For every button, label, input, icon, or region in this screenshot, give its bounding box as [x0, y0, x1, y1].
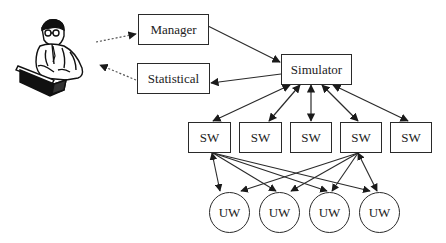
person-at-laptop-icon [16, 20, 83, 96]
simulator-node: Simulator [281, 54, 352, 85]
uw-node-3: UW [309, 192, 350, 233]
sw-node-4: SW [340, 122, 382, 153]
manager-node: Manager [138, 14, 209, 45]
sw-node-2: SW [239, 122, 282, 153]
uw-node-1: UW [209, 192, 250, 233]
sw-node-3: SW [290, 122, 332, 153]
uw-node-2: UW [259, 192, 300, 233]
uw-node-4: UW [359, 192, 400, 233]
statistical-node: Statistical [137, 63, 210, 94]
sw-node-1: SW [188, 122, 231, 153]
sw-node-5: SW [390, 122, 432, 153]
